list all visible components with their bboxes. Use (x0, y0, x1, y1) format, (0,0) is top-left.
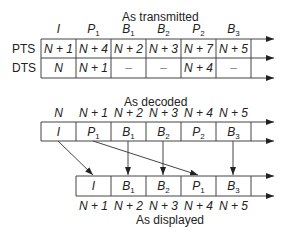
displayed-title: As displayed (136, 213, 204, 227)
decode-time: N + 1 (76, 106, 111, 120)
tx-frame-header: P2 (181, 22, 216, 41)
pts-cell: N + 2 (111, 42, 146, 56)
tx-frame-header: B1 (111, 22, 146, 41)
pts-cell: N + 4 (76, 42, 111, 56)
decoded-frame: I (41, 125, 76, 144)
dts-cell: N + 4 (181, 61, 216, 75)
displayed-frame: B3 (216, 179, 251, 198)
tx-frame-header: P1 (76, 22, 111, 41)
tx-frame-header: B3 (216, 22, 251, 41)
decode-time: N (41, 106, 76, 120)
decoded-frame: P2 (181, 125, 216, 144)
display-time: N + 5 (216, 199, 251, 213)
dts-label: DTS (12, 61, 36, 75)
decode-time: N + 4 (181, 106, 216, 120)
dts-cell: – (216, 61, 251, 75)
decoded-frame: B1 (111, 125, 146, 144)
decoded-frame: B3 (216, 125, 251, 144)
pts-cell: N + 1 (41, 42, 76, 56)
tx-frame-header: B2 (146, 22, 181, 41)
decode-time: N + 3 (146, 106, 181, 120)
pts-cell: N + 7 (181, 42, 216, 56)
display-time: N + 2 (111, 199, 146, 213)
display-time: N + 1 (76, 199, 111, 213)
decode-time: N + 5 (216, 106, 251, 120)
display-time: N + 4 (181, 199, 216, 213)
tx-frame-header: I (41, 22, 76, 41)
pts-cell: N + 3 (146, 42, 181, 56)
decode-time: N + 2 (111, 106, 146, 120)
dts-cell: – (111, 61, 146, 75)
display-time: N + 3 (146, 199, 181, 213)
pts-label: PTS (12, 42, 35, 56)
displayed-frame: P1 (181, 179, 216, 198)
displayed-frame: B2 (146, 179, 181, 198)
dts-cell: – (146, 61, 181, 75)
decoded-frame: P1 (76, 125, 111, 144)
decoded-frame: B2 (146, 125, 181, 144)
dts-cell: N + 1 (76, 61, 111, 75)
pts-cell: N + 5 (216, 42, 251, 56)
dts-cell: N (41, 61, 76, 75)
displayed-frame: B1 (111, 179, 146, 198)
displayed-frame: I (76, 179, 111, 198)
